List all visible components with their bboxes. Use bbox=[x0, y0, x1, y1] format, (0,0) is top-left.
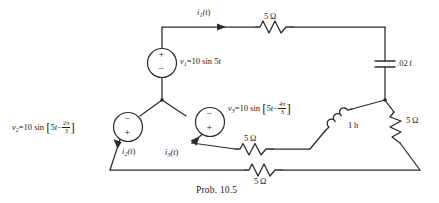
top-branch-wire bbox=[162, 27, 385, 49]
resistor-right-branch bbox=[385, 100, 420, 170]
center-junction bbox=[140, 98, 186, 116]
current-label-i2: i2(t) bbox=[122, 147, 135, 157]
resistor-mid-symbol bbox=[235, 144, 310, 156]
component-label-r-top: 5 Ω bbox=[264, 12, 276, 21]
i2-current-arrow bbox=[113, 139, 121, 149]
resistor-top-symbol bbox=[256, 21, 293, 33]
v1-minus-sign: − bbox=[159, 64, 165, 74]
v1-plus-sign: + bbox=[159, 50, 165, 60]
source-label-v3: v3=10 sin [5t−4π3] bbox=[228, 101, 291, 115]
component-label-r-mid: 5 Ω bbox=[244, 134, 256, 143]
source-label-v1: v1=10 sin 5t bbox=[180, 57, 221, 67]
component-label-inductor: 1 h bbox=[348, 121, 358, 130]
figure-caption: Prob. 10.5 bbox=[196, 185, 237, 195]
i1-current-arrow bbox=[217, 23, 226, 30]
source-label-v2: v2=10 sin [5t−2π3] bbox=[12, 120, 75, 134]
current-label-i1: i1(t) bbox=[197, 8, 210, 18]
v2-minus-sign: − bbox=[125, 114, 131, 124]
current-label-i3: i3(t) bbox=[165, 148, 178, 158]
v3-plus-sign: + bbox=[207, 123, 213, 133]
component-label-r-bottom: 5 Ω bbox=[254, 177, 266, 186]
circuit-schematic-canvas bbox=[0, 0, 439, 203]
component-label-capacitor: .02 f bbox=[397, 59, 412, 68]
capacitor-branch bbox=[375, 27, 395, 102]
circuit-figure: i1(t) 5 Ω v1=10 sin 5t + − .02 f v3=10 s… bbox=[0, 0, 439, 203]
component-label-r-right: 5 Ω bbox=[406, 116, 418, 125]
bottom-branch-wire bbox=[110, 164, 420, 176]
v2-plus-sign: + bbox=[125, 128, 131, 138]
v3-minus-sign: − bbox=[207, 109, 213, 119]
